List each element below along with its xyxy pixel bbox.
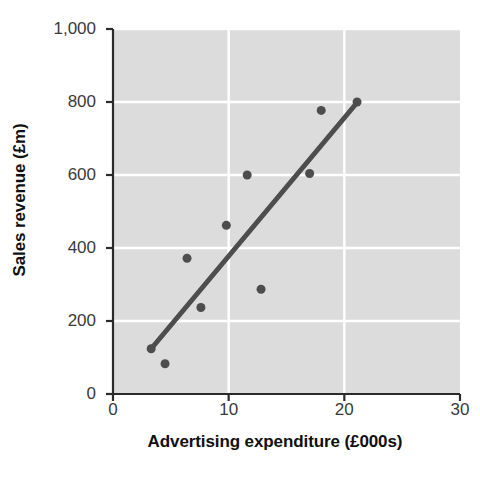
plot-background	[113, 29, 460, 394]
data-point	[196, 303, 205, 312]
data-point	[317, 106, 326, 115]
data-point	[305, 169, 314, 178]
scatter-chart: Sales revenue (£m) 02004006008001,000 01…	[0, 0, 480, 481]
data-point	[257, 285, 266, 294]
x-axis-title: Advertising expenditure (£000s)	[90, 432, 460, 452]
data-point	[243, 171, 252, 180]
data-point	[161, 359, 170, 368]
data-point	[183, 254, 192, 263]
plot-area	[0, 0, 480, 481]
data-point	[222, 221, 231, 230]
